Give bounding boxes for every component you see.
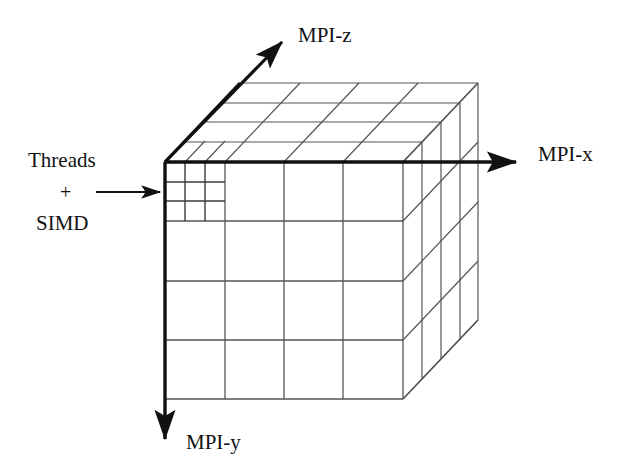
threads-simd-subgrid bbox=[165, 162, 225, 221]
cube-front-face bbox=[165, 162, 403, 399]
mpi-z-axis-arrow bbox=[165, 42, 282, 162]
simd-label: SIMD bbox=[36, 211, 89, 235]
mpi-decomposition-diagram: MPI-z MPI-x MPI-y Threads + SIMD bbox=[0, 0, 621, 470]
diagram-canvas: MPI-z MPI-x MPI-y Threads + SIMD bbox=[0, 0, 621, 470]
cube-top-face bbox=[165, 83, 478, 162]
top-face-subgrid-depth-line bbox=[185, 141, 205, 162]
plus-label: + bbox=[60, 181, 71, 203]
mpi-y-label: MPI-y bbox=[186, 430, 241, 454]
cube-right-face bbox=[403, 83, 478, 399]
mpi-x-label: MPI-x bbox=[538, 142, 593, 166]
threads-label: Threads bbox=[28, 148, 96, 172]
top-face-subgrid-depth-line bbox=[205, 141, 225, 162]
mpi-z-label: MPI-z bbox=[298, 23, 352, 47]
